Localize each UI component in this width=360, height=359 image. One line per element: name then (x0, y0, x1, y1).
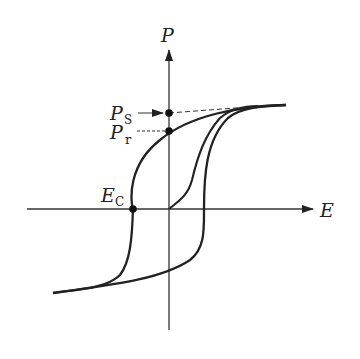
ec-label: E (100, 184, 115, 206)
pr-label: P (109, 121, 124, 143)
pr-point (165, 127, 173, 135)
ec-label-sub: C (115, 195, 124, 209)
p-axis-label: P (160, 24, 175, 46)
e-axis-label: E (319, 199, 334, 221)
virgin-curve (169, 106, 258, 209)
ec-point (129, 205, 137, 213)
ps-point (165, 109, 173, 117)
ps-label-sub: S (124, 113, 132, 127)
pr-label-sub: r (125, 132, 132, 147)
hysteresis-diagram: P E P S P r E C (0, 0, 360, 359)
